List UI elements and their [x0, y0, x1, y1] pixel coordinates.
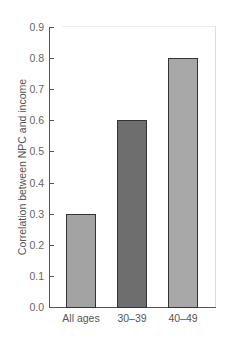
bar-2: [168, 58, 198, 308]
bar-0: [66, 214, 96, 308]
x-tick-label: All ages: [56, 312, 106, 324]
y-tick: [49, 89, 54, 90]
plot-frame-top: [62, 26, 216, 27]
y-tick: [49, 214, 54, 215]
y-tick-label: 0.8: [4, 52, 44, 64]
y-tick: [49, 245, 54, 246]
y-tick: [49, 151, 54, 152]
x-tick-label: 30–39: [107, 312, 157, 324]
y-tick-label: 0.0: [4, 301, 44, 313]
y-tick: [49, 27, 54, 28]
y-tick-label: 0.9: [4, 21, 44, 33]
y-tick: [49, 307, 54, 308]
bar-1: [117, 120, 147, 308]
y-tick-label: 0.1: [4, 270, 44, 282]
y-tick: [49, 120, 54, 121]
x-tick-label: 40–49: [158, 312, 208, 324]
y-tick: [49, 183, 54, 184]
y-tick: [49, 58, 54, 59]
y-axis-line: [49, 27, 50, 308]
plot-frame-right: [215, 26, 216, 307]
y-axis-title: Correlation between NPC and income: [16, 79, 28, 255]
y-tick: [49, 276, 54, 277]
